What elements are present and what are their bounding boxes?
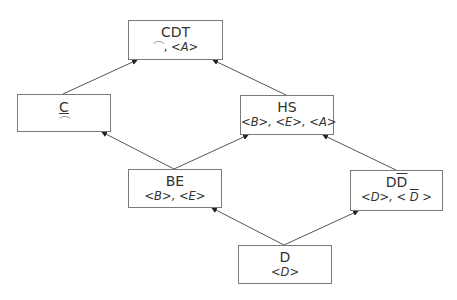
- edge-be-to-c: [102, 132, 174, 169]
- node-c-title: C: [18, 99, 110, 115]
- node-be-sub: <B>, <E>: [129, 189, 221, 203]
- edge-c-to-cdt: [63, 60, 137, 94]
- node-hs-sub: <B>, <E>, <A>: [241, 115, 333, 129]
- node-be: BE <B>, <E>: [128, 169, 222, 208]
- node-d: D <D>: [238, 245, 332, 284]
- node-hs: HS <B>, <E>, <A>: [240, 95, 334, 135]
- arc-symbol: ⌒: [59, 115, 70, 129]
- edges-layer: [0, 0, 457, 300]
- node-cdt-title: CDT: [129, 24, 222, 40]
- edge-d-to-ddbar: [284, 211, 358, 245]
- node-be-title: BE: [129, 173, 221, 189]
- edge-be-to-hs: [174, 135, 248, 169]
- edge-hs-to-cdt: [213, 60, 286, 95]
- arc-symbol: ⌒: [153, 40, 164, 54]
- node-d-title: D: [239, 249, 331, 265]
- node-ddbar-sub: <D>, < D >: [351, 190, 442, 204]
- node-c-sub: ⌒: [18, 115, 110, 129]
- edge-ddbar-to-hs: [323, 135, 396, 170]
- edge-d-to-be: [212, 208, 284, 245]
- node-ddbar-title: DD: [351, 174, 442, 190]
- node-ddbar: DD <D>, < D >: [350, 170, 443, 211]
- node-d-sub: <D>: [239, 265, 331, 279]
- node-hs-title: HS: [241, 99, 333, 115]
- node-cdt: CDT ⌒, <A>: [128, 20, 223, 60]
- node-cdt-sub: ⌒, <A>: [129, 40, 222, 54]
- node-c: C ⌒: [17, 94, 111, 132]
